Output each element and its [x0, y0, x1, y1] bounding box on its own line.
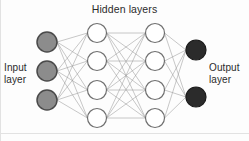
node-hidden1-2	[88, 52, 107, 71]
edge-input-0-hidden1-0	[57, 33, 88, 42]
edge-hidden2-0-output-0	[165, 33, 187, 50]
node-input-2	[37, 61, 57, 81]
node-hidden2-1	[146, 24, 165, 43]
edge-input-2-hidden1-3	[57, 100, 88, 118]
edge-input-2-hidden1-2	[57, 90, 88, 100]
node-hidden1-1	[88, 24, 107, 43]
node-input-3	[37, 90, 57, 110]
edge-input-1-hidden1-0	[57, 33, 88, 71]
node-output-2	[186, 87, 206, 107]
node-hidden2-4	[146, 109, 165, 128]
nodes-group	[37, 24, 206, 128]
node-hidden1-3	[88, 81, 107, 100]
input-layer-label: Input layer	[4, 62, 40, 85]
node-hidden1-4	[88, 109, 107, 128]
edges-group	[57, 33, 186, 118]
edge-hidden2-1-output-1	[165, 61, 187, 97]
edge-hidden2-2-output-1	[165, 90, 187, 97]
edge-input-0-hidden1-3	[57, 42, 88, 118]
neural-network-diagram: Hidden layers Input layer Output layer	[0, 0, 249, 141]
edge-hidden2-0-output-1	[165, 33, 187, 97]
node-input-1	[37, 32, 57, 52]
node-output-1	[186, 40, 206, 60]
edge-input-0-hidden1-1	[57, 42, 88, 61]
hidden-layers-title: Hidden layers	[0, 4, 249, 16]
node-hidden2-3	[146, 81, 165, 100]
output-layer-label: Output layer	[209, 62, 249, 85]
node-hidden2-2	[146, 52, 165, 71]
